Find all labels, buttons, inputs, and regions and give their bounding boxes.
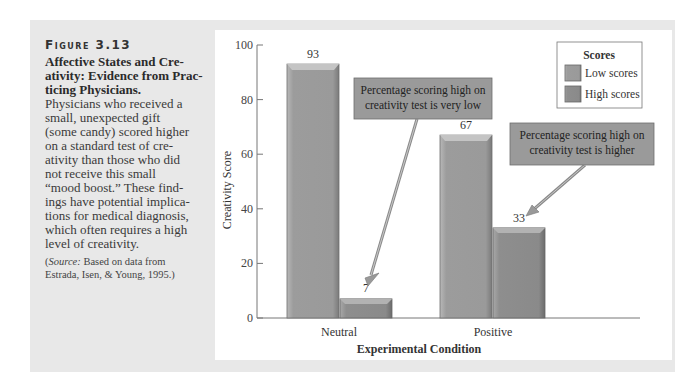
body-line: tions for medical diagnosis, [45, 209, 205, 223]
y-tick-label: 80 [241, 93, 253, 107]
source-line: Estrada, Isen, & Young, 1995.) [45, 268, 205, 281]
body-line: ings have potential implica- [45, 195, 205, 209]
y-tick-label: 100 [235, 38, 253, 52]
body-line: not receive this small [45, 167, 205, 181]
legend-swatch [565, 65, 581, 81]
bar-positive-high: 33 [493, 211, 545, 318]
annotation-text: Percentage scoring high on [520, 129, 645, 142]
legend-item-high: High scores [565, 86, 640, 102]
chart-svg: 0 20 40 60 80 100 Creativity Score Neutr… [215, 30, 672, 360]
title-line: ticing Physicians. [45, 83, 205, 97]
annotation-text: Percentage scoring high on [361, 84, 486, 97]
annotation-text: creativity test is higher [529, 144, 634, 157]
y-tick-label: 40 [241, 202, 253, 216]
data-label: 93 [307, 47, 319, 61]
legend-swatch [565, 86, 581, 102]
body-line: Physicians who received a [45, 97, 205, 111]
y-tick-labels: 0 20 40 60 80 100 [235, 38, 253, 325]
bar-positive-low: 67 [440, 118, 492, 318]
x-axis-label: Experimental Condition [357, 342, 482, 356]
figure-title: Affective States and Cre- ativity: Evide… [45, 55, 205, 97]
body-line: ativity than those who did [45, 153, 205, 167]
body-line: small, unexpected gift [45, 111, 205, 125]
figure-caption: Figure 3.13 Affective States and Cre- at… [45, 38, 205, 281]
x-axis: Neutral Positive Experimental Condition [257, 318, 640, 356]
figure-label: Figure 3.13 [45, 38, 205, 52]
bar-neutral-low: 93 [287, 47, 339, 318]
figure-description: Physicians who received a small, unexpec… [45, 97, 205, 251]
legend: Scores Low scores High scores [557, 42, 642, 108]
body-line: (some candy) scored higher [45, 125, 205, 139]
figure-source: (Source: Based on data from Estrada, Ise… [45, 255, 205, 281]
x-tick-label: Positive [474, 325, 513, 339]
body-line: level of creativity. [45, 237, 205, 251]
y-tick-label: 0 [247, 311, 253, 325]
y-axis-label: Creativity Score [220, 151, 234, 229]
annotation-text: creativity test is very low [365, 99, 482, 112]
y-tick-label: 20 [241, 256, 253, 270]
y-tick-label: 60 [241, 147, 253, 161]
y-axis: 0 20 40 60 80 100 Creativity Score [220, 38, 263, 325]
bar-neutral-high: 7 [340, 281, 392, 318]
data-label: 67 [460, 118, 472, 132]
y-ticks [257, 45, 263, 318]
title-line: ativity: Evidence from Prac- [45, 69, 205, 83]
body-line: on a standard test of cre- [45, 139, 205, 153]
legend-label: High scores [585, 88, 640, 101]
source-line: Based on data from [81, 256, 166, 267]
data-label: 33 [513, 211, 525, 225]
legend-item-low: Low scores [565, 65, 638, 81]
x-tick-label: Neutral [321, 325, 358, 339]
body-line: “mood boost.” These find- [45, 181, 205, 195]
annotation-higher: Percentage scoring high on creativity te… [510, 123, 654, 216]
source-label: Source: [49, 256, 81, 267]
body-line: which often requires a high [45, 223, 205, 237]
legend-label: Low scores [585, 67, 638, 79]
legend-title: Scores [583, 49, 615, 61]
bar-chart: 0 20 40 60 80 100 Creativity Score Neutr… [215, 30, 672, 360]
title-line: Affective States and Cre- [45, 55, 205, 69]
